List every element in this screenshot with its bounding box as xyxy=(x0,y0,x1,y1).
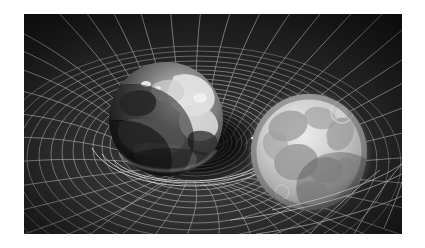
spacetime-curvature-figure xyxy=(24,14,402,234)
vignette xyxy=(24,14,402,234)
spacetime-scene-svg xyxy=(24,14,402,234)
page-root: Grayscale illustration of curved spaceti… xyxy=(0,0,425,248)
